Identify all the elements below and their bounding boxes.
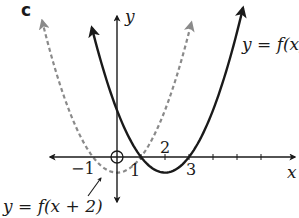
panel-label: c [21,0,31,20]
x-axis-label: x [287,162,297,182]
curve-label-f: y = f(x) [241,34,299,54]
tick-label-3: 3 [186,160,196,179]
tick-label-2: 2 [160,138,170,157]
graph-figure: c y x −1 1 2 3 y = f(x) y = f(x + 2) [0,0,299,218]
tick-label-minus-1: −1 [71,159,95,178]
curve-label-f-shifted: y = f(x + 2) [2,196,103,216]
label-pointer-arrow [88,178,101,196]
tick-label-1: 1 [130,161,140,180]
y-axis-label: y [124,6,135,26]
